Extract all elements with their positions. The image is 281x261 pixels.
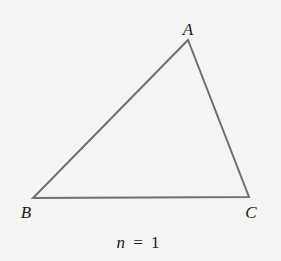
caption: n = 1	[116, 233, 159, 252]
triangle-abc	[33, 40, 249, 198]
triangle-diagram: A B C n = 1	[0, 0, 281, 261]
vertex-label-c: C	[245, 203, 257, 222]
caption-value: 1	[151, 233, 160, 252]
caption-variable: n	[116, 233, 125, 252]
caption-equals: =	[133, 233, 143, 252]
vertex-label-a: A	[182, 20, 194, 39]
vertex-label-b: B	[21, 203, 32, 222]
